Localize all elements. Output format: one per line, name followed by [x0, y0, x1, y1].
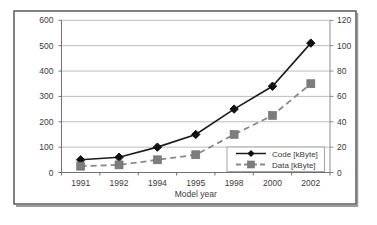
x-axis-category-label: 1994	[148, 178, 167, 188]
y-axis-left-label: 0	[49, 168, 54, 178]
y-axis-right-label: 80	[337, 66, 347, 76]
y-axis-right-label: 60	[337, 91, 347, 101]
data-series-marker	[192, 151, 200, 159]
chart-frame: 0100200300400500600020406080100120199119…	[0, 0, 377, 225]
data-series-marker	[115, 161, 123, 169]
legend-label: Data [kByte]	[272, 161, 316, 170]
y-axis-left-label: 500	[39, 41, 53, 51]
data-series-marker	[307, 80, 315, 88]
line-chart: 0100200300400500600020406080100120199119…	[0, 0, 377, 225]
x-axis-title: Model year	[175, 189, 217, 199]
y-axis-left-label: 100	[39, 142, 53, 152]
y-axis-right-label: 20	[337, 142, 347, 152]
data-series-marker	[153, 156, 161, 164]
x-axis-category-label: 2002	[301, 178, 320, 188]
legend-label: Code [kByte]	[272, 150, 318, 159]
y-axis-left-label: 600	[39, 15, 53, 25]
data-series-marker	[77, 162, 85, 170]
y-axis-right-label: 40	[337, 117, 347, 127]
screenshot-root: 0100200300400500600020406080100120199119…	[0, 0, 377, 225]
x-axis-category-label: 2000	[263, 178, 282, 188]
y-axis-right-label: 120	[337, 15, 351, 25]
y-axis-left-label: 400	[39, 66, 53, 76]
y-axis-left-label: 200	[39, 117, 53, 127]
x-axis-category-label: 1995	[186, 178, 205, 188]
legend-square-icon	[248, 161, 255, 168]
y-axis-right-label: 0	[337, 168, 342, 178]
frame-border	[14, 11, 356, 204]
data-series-marker	[230, 130, 238, 138]
x-axis-category-label: 1991	[71, 178, 90, 188]
data-series-marker	[268, 111, 276, 119]
x-axis-category-label: 1992	[110, 178, 129, 188]
y-axis-left-label: 300	[39, 91, 53, 101]
y-axis-right-label: 100	[337, 41, 351, 51]
x-axis-category-label: 1998	[225, 178, 244, 188]
